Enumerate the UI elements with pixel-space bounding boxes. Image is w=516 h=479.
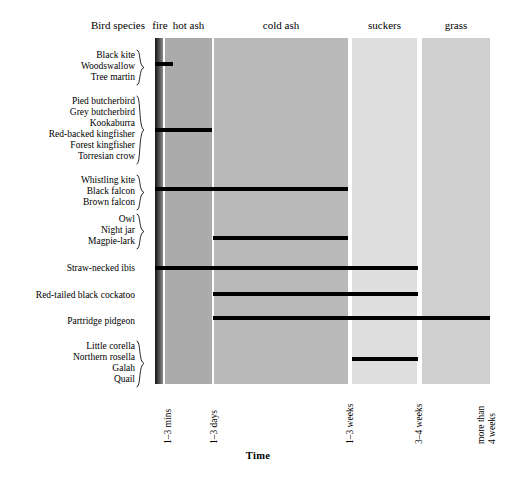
bar-group-5 xyxy=(155,266,418,270)
species-label: Little corella xyxy=(0,341,135,353)
species-label: Black falcon xyxy=(0,186,135,198)
band-grass xyxy=(422,38,490,384)
group-brace xyxy=(136,174,145,211)
species-label: Night jar xyxy=(0,225,135,237)
column-header-cold-ash: cold ash xyxy=(214,19,348,32)
column-header-suckers: suckers xyxy=(352,19,417,32)
species-label: Red-tailed black cockatoo xyxy=(0,290,135,302)
species-label: Black kite xyxy=(0,50,135,62)
x-axis-title: Time xyxy=(0,450,516,461)
x-tick-1-3-days: 1–3 days xyxy=(209,410,220,444)
column-header-grass: grass xyxy=(422,19,490,32)
species-label: Pied butcherbird xyxy=(0,96,135,108)
group-brace xyxy=(136,49,145,86)
species-label: Woodswallow xyxy=(0,61,135,73)
band-hot-ash xyxy=(165,38,212,384)
x-tick-more-than-4-weeks-line2: 4 weeks xyxy=(487,413,498,444)
x-tick-1-3-weeks: 1–3 weeks xyxy=(345,404,356,444)
species-label: Northern rosella xyxy=(0,352,135,364)
bar-group-2 xyxy=(155,128,212,132)
y-axis-title: Bird species xyxy=(60,19,145,32)
x-tick-1-3-mins: 1–3 mins xyxy=(163,409,174,444)
species-label: Magpie-lark xyxy=(0,236,135,248)
column-header-hot-ash: hot ash xyxy=(165,19,212,32)
x-tick-more-than-4-weeks-line1: more than xyxy=(476,406,487,444)
species-label: Forest kingfisher xyxy=(0,140,135,152)
bar-group-7 xyxy=(213,316,490,320)
bar-group-6 xyxy=(213,292,418,296)
species-label: Whistling kite xyxy=(0,175,135,187)
bar-group-3 xyxy=(155,187,348,191)
group-brace xyxy=(136,95,145,165)
band-fire xyxy=(155,38,163,384)
species-label: Quail xyxy=(0,374,135,386)
species-label: Owl xyxy=(0,214,135,226)
species-label: Red-backed kingfisher xyxy=(0,129,135,141)
band-suckers xyxy=(352,38,417,384)
band-cold-ash xyxy=(214,38,348,384)
species-label: Tree martin xyxy=(0,72,135,84)
species-label: Kookaburra xyxy=(0,118,135,130)
species-label: Partridge pidgeon xyxy=(0,316,135,328)
bird-species-time-chart: Bird species fire hot ash cold ash sucke… xyxy=(0,0,516,479)
bar-group-8 xyxy=(352,357,418,361)
species-label: Galah xyxy=(0,363,135,375)
x-tick-3-4-weeks: 3–4 weeks xyxy=(414,404,425,444)
species-label: Straw-necked ibis xyxy=(0,263,135,275)
bar-group-1 xyxy=(155,62,173,66)
species-label: Grey butcherbird xyxy=(0,107,135,119)
species-label: Brown falcon xyxy=(0,197,135,209)
bar-group-4 xyxy=(213,236,348,240)
group-brace xyxy=(136,340,145,388)
group-brace xyxy=(136,213,145,250)
species-label: Torresian crow xyxy=(0,151,135,163)
